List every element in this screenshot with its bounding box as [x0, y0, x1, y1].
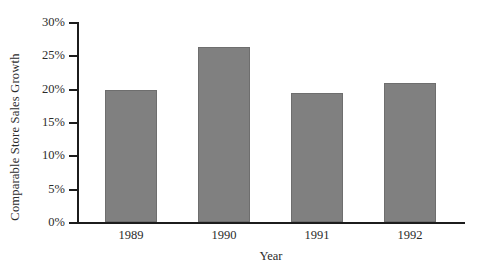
y-tick-mark: [69, 189, 78, 191]
y-tick-mark: [69, 222, 78, 224]
plot-area: 30% 25% 20% 15% 10% 5% 0% 1989: [77, 22, 465, 222]
x-axis-title: Year: [77, 249, 465, 264]
y-axis-title: Comparable Store Sales Growth: [0, 0, 30, 274]
bar-1992: [384, 83, 436, 222]
y-tick-label: 20%: [42, 81, 65, 96]
y-tick-label: 25%: [42, 48, 65, 63]
y-tick-mark: [69, 22, 78, 24]
bar-1989: [105, 90, 157, 222]
y-tick-label: 0%: [48, 215, 65, 230]
x-axis-line: [77, 222, 465, 224]
bar-chart: Comparable Store Sales Growth 30% 25% 20…: [0, 0, 483, 274]
x-tick-label-1989: 1989: [119, 228, 144, 243]
y-tick-mark: [69, 122, 78, 124]
y-tick-mark: [69, 89, 78, 91]
y-tick-mark: [69, 55, 78, 57]
y-tick-mark: [69, 155, 78, 157]
x-tick-label-1990: 1990: [212, 228, 237, 243]
bar-1990: [198, 47, 250, 222]
y-tick-label: 30%: [42, 15, 65, 30]
x-tick-label-1992: 1992: [398, 228, 423, 243]
y-tick-label: 5%: [48, 181, 65, 196]
bar-1991: [291, 93, 343, 222]
x-tick-label-1991: 1991: [305, 228, 330, 243]
y-tick-label: 10%: [42, 148, 65, 163]
y-tick-label: 15%: [42, 115, 65, 130]
